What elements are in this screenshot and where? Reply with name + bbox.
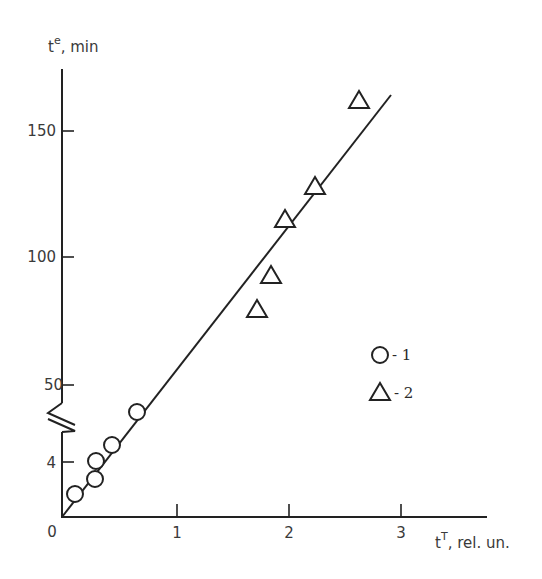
x-tick-label-2: 2 <box>284 524 294 542</box>
data-point <box>305 177 325 194</box>
data-point <box>87 471 103 487</box>
legend: - 1 - 2 <box>370 346 413 402</box>
series-1-markers <box>67 404 145 502</box>
y-ticks <box>62 131 74 462</box>
origin-label: 0 <box>47 523 57 541</box>
x-ticks <box>177 504 401 517</box>
chart: 150 100 50 4 0 1 2 3 te, min tT, rel. un… <box>0 0 542 579</box>
legend-circle-icon <box>372 347 388 363</box>
y-axis-title: te, min <box>48 34 99 56</box>
series-2-markers <box>247 91 369 317</box>
y-tick-label-50: 50 <box>44 376 63 394</box>
data-point <box>67 486 83 502</box>
x-tick-label-1: 1 <box>172 524 182 542</box>
x-tick-label-3: 3 <box>396 524 406 542</box>
data-point <box>104 437 120 453</box>
data-point <box>247 300 267 317</box>
data-point <box>349 91 369 108</box>
y-tick-label-100: 100 <box>27 248 56 266</box>
x-axis-title: tT, rel. un. <box>435 530 510 552</box>
legend-label-1: - 1 <box>392 346 411 364</box>
data-point <box>275 210 295 227</box>
y-tick-label-4: 4 <box>46 454 56 472</box>
data-point <box>88 453 104 469</box>
data-point <box>261 266 281 283</box>
data-point <box>129 404 145 420</box>
y-tick-label-150: 150 <box>27 122 56 140</box>
legend-triangle-icon <box>370 383 390 400</box>
legend-label-2: - 2 <box>394 384 413 402</box>
